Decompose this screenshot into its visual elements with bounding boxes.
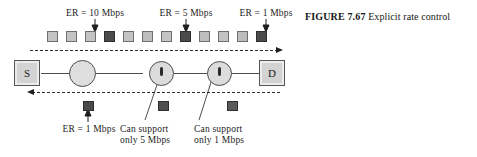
figure-number: FIGURE 7.67 <box>305 11 366 22</box>
forward-cell <box>47 31 58 42</box>
return-flow-line <box>32 92 280 93</box>
return-cell <box>227 101 238 111</box>
figure-caption: FIGURE 7.67 Explicit rate control <box>305 10 471 23</box>
label-er-5mbps: ER = 5 Mbps <box>148 8 224 19</box>
forward-flow-line <box>30 50 278 51</box>
router-3 <box>207 61 232 86</box>
link-r1-r2 <box>95 73 143 74</box>
router-2-queue-icon <box>160 67 163 76</box>
router-2 <box>149 61 174 86</box>
label-router-3-capacity-line2: only 1 Mbps <box>194 135 260 146</box>
label-router-2-capacity-line1: Can support <box>120 124 186 135</box>
label-router-3-capacity-line1: Can support <box>194 124 260 135</box>
forward-cell <box>142 31 153 42</box>
forward-cell <box>218 31 229 42</box>
link-r2-r3 <box>174 73 207 74</box>
label-router-2-capacity-line2: only 5 Mbps <box>120 135 186 146</box>
figure-caption-text: Explicit rate control <box>368 11 450 22</box>
label-er-1mbps: ER = 1 Mbps <box>228 8 304 19</box>
figure-explicit-rate-control: ER = 10 Mbps ER = 5 Mbps ER = 1 Mbps S D <box>0 0 477 157</box>
forward-cell-marked <box>256 31 267 42</box>
forward-cell <box>199 31 210 42</box>
return-arrow-icon <box>27 89 34 95</box>
link-s-r1 <box>41 73 71 74</box>
router-3-queue-icon <box>218 67 221 76</box>
return-cell-marked <box>83 101 94 111</box>
node-destination: D <box>259 60 285 86</box>
link-r3-d <box>232 73 260 74</box>
forward-cell <box>66 31 77 42</box>
return-cell <box>158 101 169 111</box>
forward-cell <box>161 31 172 42</box>
label-er-1mbps-return: ER = 1 Mbps <box>48 124 130 135</box>
label-er-10mbps: ER = 10 Mbps <box>55 8 135 19</box>
forward-arrow-icon <box>276 47 283 53</box>
node-source: S <box>14 60 40 86</box>
node-source-label: S <box>15 61 39 85</box>
forward-cell <box>237 31 248 42</box>
forward-cell <box>123 31 134 42</box>
label-er-1mbps-return-line1: ER = 1 Mbps <box>48 124 130 135</box>
forward-cell-marked <box>180 31 191 42</box>
forward-cell-marked <box>104 31 115 42</box>
router-1 <box>69 60 96 87</box>
forward-cell <box>85 31 96 42</box>
node-destination-label: D <box>260 61 284 85</box>
label-router-3-capacity: Can support only 1 Mbps <box>194 124 260 146</box>
label-router-2-capacity: Can support only 5 Mbps <box>120 124 186 146</box>
